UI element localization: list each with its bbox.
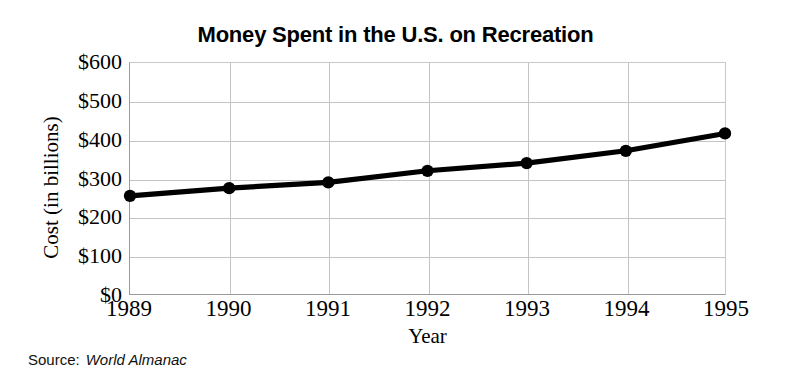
x-tick-label-1995: 1995 [678, 296, 774, 321]
x-tick-label-1994: 1994 [579, 296, 675, 321]
series-polyline [130, 133, 725, 195]
y-tick-label-400: $400 [48, 129, 122, 151]
x-tick-label-1991: 1991 [280, 296, 376, 321]
y-tick-label-600: $600 [48, 51, 122, 73]
x-tick-label-1992: 1992 [380, 296, 476, 321]
source-value: World Almanac [86, 351, 187, 368]
y-axis-tick-labels: $600 $500 $400 $300 $200 $100 $0 [46, 0, 122, 386]
source-note: Source:World Almanac [28, 351, 187, 368]
data-point [520, 157, 532, 169]
y-tick-label-300: $300 [48, 168, 122, 190]
plot-area [129, 62, 726, 295]
source-label: Source: [28, 351, 80, 368]
data-point [223, 182, 235, 194]
data-point [322, 176, 334, 188]
chart-figure: Money Spent in the U.S. on Recreation Co… [0, 0, 791, 386]
data-point [620, 145, 632, 157]
y-tick-label-500: $500 [48, 90, 122, 112]
x-tick-label-1989: 1989 [81, 296, 177, 321]
data-point [421, 165, 433, 177]
y-tick-label-200: $200 [48, 206, 122, 228]
data-point [719, 127, 731, 139]
x-tick-label-1990: 1990 [181, 296, 277, 321]
data-series-line [130, 63, 725, 294]
x-axis-title: Year [129, 324, 726, 349]
x-tick-label-1993: 1993 [479, 296, 575, 321]
y-tick-label-100: $100 [48, 245, 122, 267]
data-point [124, 190, 136, 202]
